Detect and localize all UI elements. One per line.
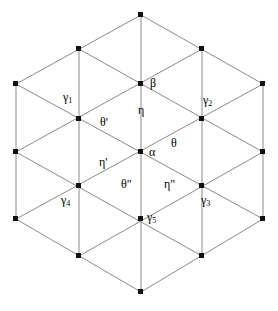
vertex-gamma4 bbox=[76, 183, 81, 188]
vertex-left-lower bbox=[13, 216, 18, 221]
lattice-svg bbox=[0, 0, 278, 311]
gamma-2-subscript: 2 bbox=[208, 99, 212, 108]
label-gamma-2: γ2 bbox=[203, 94, 212, 106]
label-alpha: α bbox=[149, 146, 155, 158]
vertex-gamma1 bbox=[76, 116, 81, 121]
label-eta-prime: η' bbox=[99, 156, 107, 168]
vertex-alpha bbox=[138, 149, 143, 154]
vertex-right-lower bbox=[260, 216, 265, 221]
vertex-left-upper bbox=[13, 81, 18, 86]
gamma-1-subscript: 1 bbox=[68, 96, 72, 105]
vertex-bottom bbox=[138, 289, 143, 294]
label-gamma-3: γ3 bbox=[201, 194, 210, 206]
vertex-right-upper bbox=[260, 81, 265, 86]
vertex-top bbox=[138, 12, 143, 17]
gamma-5-subscript: 5 bbox=[152, 216, 156, 225]
vertex-left-mid bbox=[13, 149, 18, 154]
vertex-gamma2 bbox=[199, 116, 204, 121]
label-eta-double-prime: η" bbox=[164, 178, 175, 190]
label-eta: η bbox=[138, 104, 144, 116]
vertex-right-mid bbox=[260, 149, 265, 154]
label-gamma-1: γ1 bbox=[63, 91, 72, 103]
gamma-3-subscript: 3 bbox=[206, 199, 210, 208]
label-gamma-5: γ5 bbox=[147, 211, 156, 223]
label-theta: θ bbox=[171, 137, 177, 149]
vertex-gamma3 bbox=[199, 183, 204, 188]
vertex-upper-left bbox=[76, 46, 81, 51]
gamma-4-subscript: 4 bbox=[66, 199, 70, 208]
label-theta-double-prime: θ" bbox=[121, 178, 132, 190]
label-beta: β bbox=[150, 77, 156, 89]
lattice-vertices-group bbox=[13, 12, 265, 294]
vertex-beta bbox=[138, 81, 143, 86]
lattice-diagram: β η θ' α θ η' θ" η" γ1 γ2 γ3 γ4 γ5 bbox=[0, 0, 278, 311]
vertex-lower-right bbox=[199, 253, 204, 258]
label-gamma-4: γ4 bbox=[61, 194, 70, 206]
vertex-lower-left bbox=[76, 253, 81, 258]
vertex-gamma5 bbox=[138, 216, 143, 221]
vertex-upper-right bbox=[199, 46, 204, 51]
label-theta-prime: θ' bbox=[100, 116, 108, 128]
